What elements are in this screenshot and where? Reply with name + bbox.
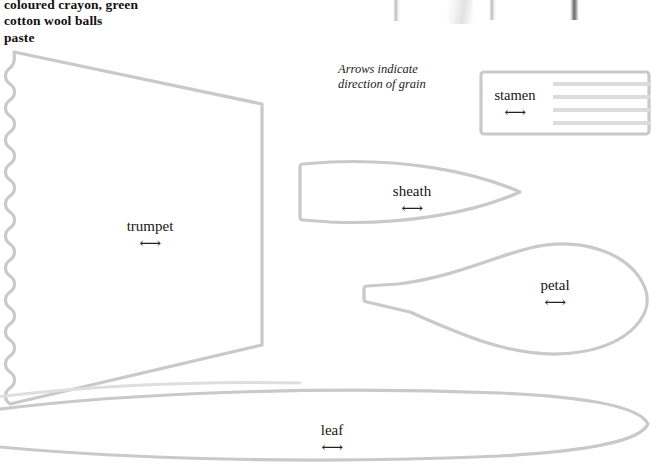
label-sheath: sheath ⟷ xyxy=(357,183,467,216)
materials-line-1: coloured crayon, green xyxy=(4,0,254,13)
materials-list: coloured crayon, green cotton wool balls… xyxy=(4,0,254,46)
fragment-paper-image xyxy=(447,0,473,24)
grain-direction-note: Arrows indicate direction of grain xyxy=(338,62,426,92)
grain-note-line-2: direction of grain xyxy=(338,77,426,92)
materials-line-3: paste xyxy=(4,30,254,46)
leaf-upper-sliver-outline xyxy=(0,383,300,399)
label-trumpet-text: trumpet xyxy=(95,218,205,235)
label-petal-text: petal xyxy=(500,277,610,294)
fragment-stick-2-image xyxy=(489,0,496,20)
materials-line-2: cotton wool balls xyxy=(4,13,254,29)
grain-arrow-trumpet-icon: ⟷ xyxy=(95,236,205,251)
grain-arrow-stamen-icon: ⟷ xyxy=(460,105,570,120)
label-petal: petal ⟷ xyxy=(500,277,610,310)
grain-note-line-1: Arrows indicate xyxy=(338,62,426,77)
fragment-stick-3-image xyxy=(570,0,579,20)
label-trumpet: trumpet ⟷ xyxy=(95,218,205,251)
label-sheath-text: sheath xyxy=(357,183,467,200)
fragment-stick-1-image xyxy=(393,0,400,21)
grain-arrow-sheath-icon: ⟷ xyxy=(357,201,467,216)
label-stamen-text: stamen xyxy=(460,87,570,104)
grain-arrow-leaf-icon: ⟷ xyxy=(277,440,387,455)
label-leaf: leaf ⟷ xyxy=(277,422,387,455)
label-leaf-text: leaf xyxy=(277,422,387,439)
label-stamen: stamen ⟷ xyxy=(460,87,570,120)
pattern-template-page: coloured crayon, green cotton wool balls… xyxy=(0,0,651,470)
grain-arrow-petal-icon: ⟷ xyxy=(500,295,610,310)
